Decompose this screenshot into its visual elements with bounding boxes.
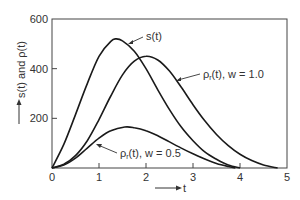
- annotation-rho-w05-text: (t), w = 0.5: [129, 147, 181, 159]
- y-axis-title: s(t) and ρ(t): [15, 41, 27, 98]
- arrowhead-s-icon: [128, 40, 133, 44]
- y-axis-arrow-icon: [17, 99, 22, 105]
- arrowhead-rho-w1-icon: [176, 77, 181, 81]
- plot-frame: [52, 19, 287, 168]
- x-tick-label: 2: [143, 171, 149, 183]
- y-axis: 200400600: [30, 13, 57, 124]
- annotation-rho-w1: ρr(t), w = 1.0: [203, 68, 264, 81]
- x-tick-label: 5: [284, 171, 290, 183]
- annotation-rho-w1-text: (t), w = 1.0: [212, 68, 264, 80]
- annotation-s: s(t): [146, 30, 162, 42]
- x-axis-arrow-icon: [176, 186, 182, 191]
- y-tick-label: 200: [30, 112, 48, 124]
- x-axis: 012345: [49, 163, 290, 183]
- y-tick-label: 400: [30, 63, 48, 75]
- x-tick-label: 3: [190, 171, 196, 183]
- x-tick-label: 4: [237, 171, 243, 183]
- x-tick-label: 1: [96, 171, 102, 183]
- x-tick-label: 0: [49, 171, 55, 183]
- y-axis-title-text: s(t) and ρ(t): [15, 41, 27, 98]
- leader-rho-w1: [178, 74, 200, 80]
- y-tick-label: 600: [30, 13, 48, 25]
- line-chart: 200400600 012345 s(t) ρr(t), w = 1.0 ρr(…: [0, 0, 300, 200]
- x-axis-title: t: [183, 182, 186, 194]
- annotation-rho-w05: ρr(t), w = 0.5: [120, 147, 181, 160]
